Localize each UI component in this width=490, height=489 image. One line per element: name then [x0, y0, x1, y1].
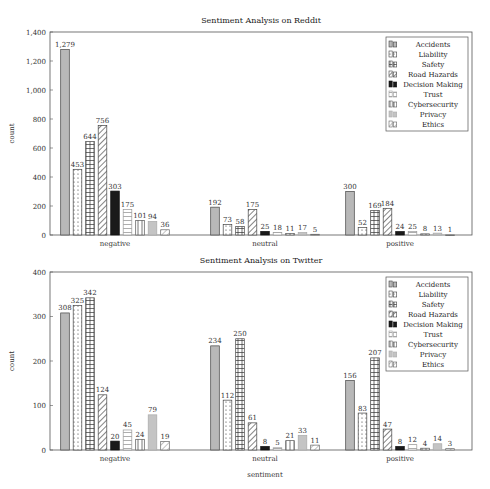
- reddit-chart: Sentiment Analysis on Reddit020040060080…: [8, 16, 472, 248]
- bar-value-label: 124: [96, 386, 110, 394]
- bar-value-label: 25: [408, 223, 417, 231]
- legend-entry-label: Privacy: [420, 111, 446, 119]
- bar-value-label: 644: [83, 133, 97, 141]
- bar-value-label: 12: [408, 436, 417, 444]
- bar-accidents: [346, 381, 355, 450]
- bar-road-hazards: [383, 429, 392, 450]
- bar-safety: [86, 298, 95, 450]
- bar-value-label: 169: [368, 202, 381, 210]
- bar-safety: [86, 142, 95, 235]
- bar-liability: [73, 305, 82, 450]
- bar-value-label: 156: [343, 372, 357, 380]
- bar-liability: [358, 413, 367, 450]
- legend-entry-label: Trust: [424, 331, 443, 339]
- bar-value-label: 101: [133, 212, 146, 220]
- bar-cybersecurity: [421, 234, 430, 235]
- chart-title: Sentiment Analysis on Reddit: [201, 16, 322, 25]
- bar-value-label: 18: [273, 224, 282, 232]
- bar-trust: [408, 445, 417, 450]
- x-axis-label: sentiment: [247, 471, 283, 479]
- legend-swatch-icon: [389, 331, 392, 337]
- legend-swatch-icon: [389, 351, 392, 357]
- bar-value-label: 94: [148, 213, 157, 221]
- bar-ethics: [311, 234, 320, 235]
- bar-value-label: 1: [448, 226, 452, 234]
- bar-safety: [371, 210, 380, 235]
- bar-decision-making: [396, 446, 405, 450]
- bar-value-label: 36: [161, 221, 170, 229]
- bar-value-label: 4: [423, 440, 428, 448]
- bar-decision-making: [111, 191, 120, 235]
- legend-swatch-icon: [389, 341, 392, 347]
- bar-value-label: 73: [223, 216, 232, 224]
- bar-privacy: [148, 221, 157, 235]
- bar-accidents: [61, 313, 70, 450]
- bar-value-label: 58: [236, 218, 245, 226]
- bar-value-label: 207: [368, 349, 381, 357]
- bar-value-label: 303: [108, 183, 121, 191]
- y-tick-label: 600: [33, 145, 46, 153]
- x-tick-label: positive: [386, 455, 414, 463]
- bar-trust: [123, 210, 132, 235]
- bar-value-label: 13: [433, 225, 442, 233]
- bar-road-hazards: [383, 208, 392, 235]
- bar-value-label: 5: [313, 226, 317, 234]
- bar-ethics: [161, 442, 170, 450]
- bar-decision-making: [396, 232, 405, 235]
- bar-value-label: 184: [381, 200, 395, 208]
- bar-value-label: 24: [396, 223, 405, 231]
- legend-swatch-icon: [389, 291, 392, 297]
- legend-swatch-icon: [389, 111, 392, 117]
- bar-liability: [223, 400, 232, 450]
- legend-swatch-icon: [389, 301, 392, 307]
- bar-value-label: 20: [111, 433, 120, 441]
- bar-road-hazards: [248, 423, 257, 450]
- bar-privacy: [433, 233, 442, 235]
- bar-decision-making: [261, 231, 270, 235]
- bar-value-label: 250: [233, 330, 246, 338]
- bar-value-label: 52: [358, 219, 367, 227]
- bar-value-label: 175: [246, 201, 259, 209]
- y-tick-label: 0: [42, 447, 46, 455]
- bar-value-label: 11: [286, 225, 295, 233]
- legend-entry-label: Liability: [418, 51, 447, 59]
- bar-decision-making: [111, 441, 120, 450]
- legend-swatch-icon: [389, 101, 392, 107]
- bar-value-label: 3: [448, 440, 452, 448]
- bar-value-label: 24: [136, 431, 145, 439]
- legend-swatch-icon: [389, 91, 392, 97]
- bar-value-label: 453: [71, 161, 84, 169]
- legend: AccidentsLiabilitySafetyRoad HazardsDeci…: [386, 37, 468, 131]
- bar-accidents: [211, 346, 220, 450]
- bar-trust: [408, 231, 417, 235]
- bar-value-label: 17: [298, 224, 307, 232]
- y-tick-label: 1,200: [26, 58, 46, 66]
- bar-accidents: [211, 207, 220, 235]
- bar-value-label: 61: [248, 414, 257, 422]
- y-axis-label: count: [8, 351, 16, 371]
- y-tick-label: 300: [33, 313, 46, 321]
- legend-entry-label: Privacy: [420, 351, 446, 359]
- bar-value-label: 47: [383, 421, 392, 429]
- y-axis-label: count: [8, 123, 16, 143]
- y-tick-label: 1,400: [26, 29, 46, 37]
- bar-cybersecurity: [136, 220, 145, 235]
- bar-value-label: 756: [96, 117, 110, 125]
- legend-swatch-icon: [389, 311, 392, 317]
- bar-ethics: [311, 445, 320, 450]
- bar-value-label: 325: [71, 297, 84, 305]
- legend-entry-label: Decision Making: [403, 321, 463, 329]
- legend-entry-label: Road Hazards: [408, 311, 458, 319]
- legend-entry-label: Trust: [424, 91, 443, 99]
- y-tick-label: 100: [33, 402, 46, 410]
- bar-value-label: 8: [263, 438, 267, 446]
- legend-entry-label: Cybersecurity: [408, 341, 458, 349]
- bar-value-label: 83: [358, 405, 367, 413]
- bar-ethics: [446, 449, 455, 450]
- bar-value-label: 21: [286, 432, 295, 440]
- legend-entry-label: Liability: [418, 291, 447, 299]
- y-tick-label: 200: [33, 358, 46, 366]
- legend-swatch-icon: [389, 41, 392, 47]
- bar-value-label: 5: [275, 439, 279, 447]
- y-tick-label: 400: [33, 269, 46, 277]
